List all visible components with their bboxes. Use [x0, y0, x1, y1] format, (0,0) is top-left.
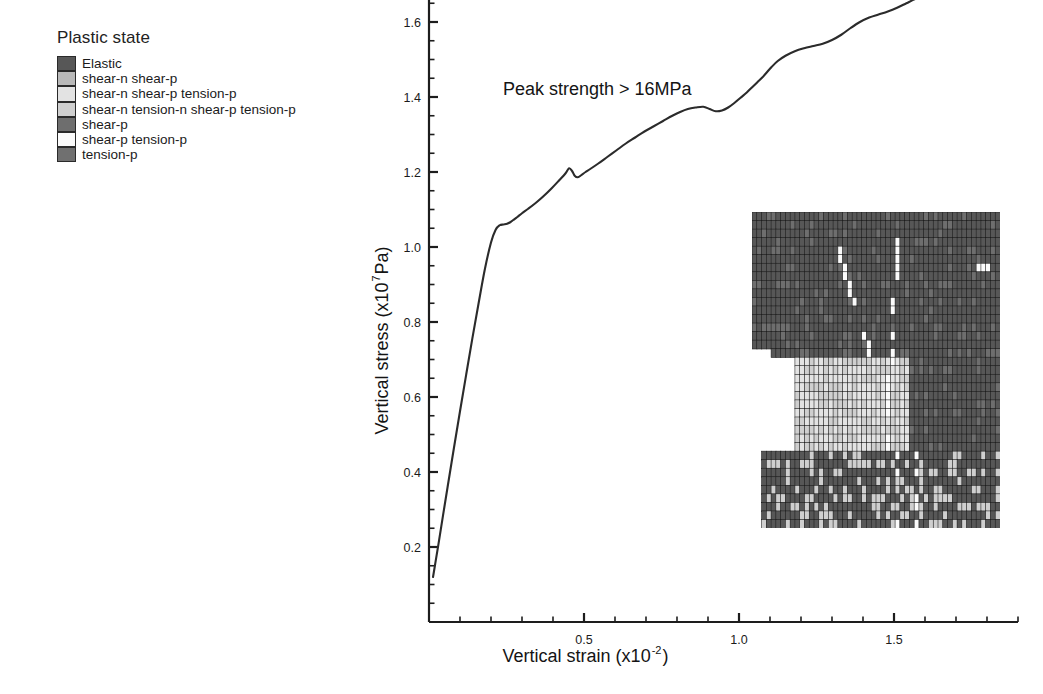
- mesh-cell: [933, 272, 938, 281]
- mesh-cell: [938, 332, 943, 341]
- mesh-cell: [938, 255, 943, 264]
- mesh-cell: [852, 434, 857, 443]
- mesh-cell: [900, 502, 905, 511]
- mesh-cell: [800, 366, 805, 375]
- mesh-cell: [971, 391, 976, 400]
- mesh-cell: [990, 477, 995, 486]
- mesh-cell: [833, 391, 838, 400]
- mesh-cell: [843, 289, 848, 298]
- mesh-cell: [790, 255, 795, 264]
- mesh-cell: [995, 511, 1000, 520]
- mesh-cell: [871, 366, 876, 375]
- mesh-cell: [952, 238, 957, 247]
- mesh-cell: [847, 494, 852, 503]
- mesh-cell: [828, 349, 833, 358]
- mesh-cell: [757, 212, 762, 221]
- mesh-cell: [928, 212, 933, 221]
- mesh-cell: [967, 426, 972, 435]
- mesh-cell: [948, 477, 953, 486]
- mesh-cell: [781, 460, 786, 469]
- mesh-cell: [804, 306, 809, 315]
- mesh-cell: [785, 485, 790, 494]
- mesh-cell: [990, 366, 995, 375]
- mesh-cell: [943, 357, 948, 366]
- mesh-cell: [790, 212, 795, 221]
- mesh-cell: [766, 460, 771, 469]
- mesh-cell: [862, 374, 867, 383]
- mesh-cell: [957, 426, 962, 435]
- mesh-cell: [957, 263, 962, 272]
- mesh-cell: [895, 443, 900, 452]
- mesh-cell: [943, 443, 948, 452]
- mesh-cell: [919, 374, 924, 383]
- mesh-cell: [814, 451, 819, 460]
- mesh-cell: [957, 366, 962, 375]
- mesh-cell: [909, 443, 914, 452]
- mesh-cell: [752, 297, 757, 306]
- mesh-cell: [771, 246, 776, 255]
- mesh-cell: [967, 289, 972, 298]
- mesh-cell: [900, 383, 905, 392]
- mesh-cell: [995, 263, 1000, 272]
- mesh-cell: [876, 238, 881, 247]
- mesh-cell: [804, 280, 809, 289]
- mesh-cell: [795, 374, 800, 383]
- mesh-cell: [952, 289, 957, 298]
- mesh-cell: [838, 349, 843, 358]
- mesh-cell: [948, 443, 953, 452]
- mesh-cell: [933, 255, 938, 264]
- mesh-cell: [957, 451, 962, 460]
- mesh-cell: [957, 349, 962, 358]
- mesh-cell: [914, 400, 919, 409]
- mesh-cell: [990, 357, 995, 366]
- mesh-cell: [785, 502, 790, 511]
- mesh-cell: [852, 468, 857, 477]
- mesh-cell: [971, 485, 976, 494]
- mesh-cell: [895, 212, 900, 221]
- mesh-cell: [833, 366, 838, 375]
- mesh-cell: [905, 229, 910, 238]
- mesh-cell: [790, 451, 795, 460]
- x-axis-title: Vertical strain (x10 -2 ): [503, 644, 669, 666]
- mesh-cell: [847, 374, 852, 383]
- mesh-cell: [785, 340, 790, 349]
- mesh-cell: [990, 511, 995, 520]
- mesh-cell: [914, 306, 919, 315]
- mesh-cell: [886, 212, 891, 221]
- mesh-cell: [905, 451, 910, 460]
- mesh-cell: [948, 468, 953, 477]
- mesh-cell: [809, 314, 814, 323]
- mesh-cell: [905, 443, 910, 452]
- mesh-cell: [933, 408, 938, 417]
- mesh-cell: [857, 400, 862, 409]
- mesh-cell: [938, 460, 943, 469]
- mesh-cell: [943, 272, 948, 281]
- mesh-cell: [757, 306, 762, 315]
- mesh-cell: [781, 238, 786, 247]
- mesh-cell: [943, 468, 948, 477]
- mesh-cell: [847, 366, 852, 375]
- mesh-cell: [833, 238, 838, 247]
- mesh-cell: [862, 511, 867, 520]
- mesh-cell: [843, 323, 848, 332]
- mesh-cell: [762, 485, 767, 494]
- mesh-cell: [948, 511, 953, 520]
- mesh-cell: [862, 280, 867, 289]
- mesh-cell: [881, 349, 886, 358]
- mesh-cell: [967, 306, 972, 315]
- mesh-cell: [928, 229, 933, 238]
- mesh-cell: [981, 468, 986, 477]
- mesh-cell: [814, 434, 819, 443]
- mesh-cell: [838, 502, 843, 511]
- mesh-cell: [843, 451, 848, 460]
- mesh-cell: [914, 451, 919, 460]
- mesh-cell: [862, 391, 867, 400]
- mesh-cell: [762, 332, 767, 341]
- mesh-cell: [900, 246, 905, 255]
- mesh-cell: [814, 229, 819, 238]
- mesh-cell: [790, 511, 795, 520]
- mesh-cell: [943, 238, 948, 247]
- mesh-cell: [847, 357, 852, 366]
- mesh-cell: [847, 391, 852, 400]
- mesh-cell: [909, 502, 914, 511]
